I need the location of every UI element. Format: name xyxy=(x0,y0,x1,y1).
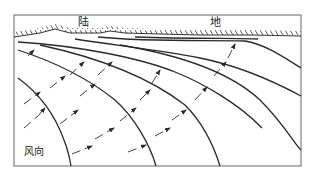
ray-2b xyxy=(80,84,95,96)
ray-3d xyxy=(140,90,150,100)
land-label-char-2: 地 xyxy=(210,17,221,28)
wave-rays xyxy=(24,44,235,154)
ray-3b xyxy=(95,128,114,139)
land-label-char-1: 陆 xyxy=(78,17,89,28)
ray-1d xyxy=(70,62,84,75)
ray-4f xyxy=(228,44,235,58)
ray-1 xyxy=(24,108,45,128)
wave-crests xyxy=(18,37,301,166)
ray-4b xyxy=(155,128,170,136)
ray-4c xyxy=(172,110,186,120)
wave-crest-4 xyxy=(135,37,258,39)
wind-direction-label: 风向 xyxy=(24,147,44,157)
wave-crest-1 xyxy=(18,42,262,128)
wave-crest-3 xyxy=(98,37,301,68)
coastline xyxy=(14,24,301,37)
ray-2a xyxy=(60,110,78,124)
ray-4d xyxy=(195,87,207,100)
ray-3a xyxy=(72,146,92,154)
ray-2c xyxy=(98,62,112,75)
ray-1b xyxy=(24,92,40,104)
ray-3e xyxy=(152,70,160,83)
ray-4a xyxy=(128,145,146,152)
wave-refraction-diagram xyxy=(0,0,316,179)
ray-1c xyxy=(50,76,65,88)
